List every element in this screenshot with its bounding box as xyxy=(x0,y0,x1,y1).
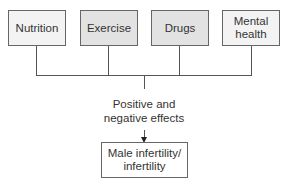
outcome-box: Male infertility/ infertility xyxy=(101,142,188,178)
arrow-line xyxy=(144,130,145,137)
effects-label: Positive and negative effects xyxy=(84,97,204,125)
outcome-label-line-2: infertility xyxy=(123,160,165,173)
factor-label: Drugs xyxy=(165,22,196,35)
connector-line-mental-health xyxy=(251,46,252,76)
factor-label: Nutrition xyxy=(16,22,59,35)
factor-box-mental-health: Mental health xyxy=(222,10,280,46)
connector-line-exercise xyxy=(108,46,109,76)
factor-box-drugs: Drugs xyxy=(151,10,209,46)
connector-line-center xyxy=(144,75,145,89)
factor-box-exercise: Exercise xyxy=(80,10,138,46)
factor-box-nutrition: Nutrition xyxy=(8,10,66,46)
factor-label: Mental health xyxy=(229,15,273,41)
outcome-label-line-1: Male infertility/ xyxy=(108,147,182,160)
effects-label-line-1: Positive and xyxy=(84,97,204,111)
connector-line-drugs xyxy=(179,46,180,76)
effects-label-line-2: negative effects xyxy=(84,111,204,125)
connector-line-nutrition xyxy=(36,46,37,76)
factor-label: Exercise xyxy=(87,22,131,35)
